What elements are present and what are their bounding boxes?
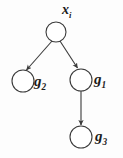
node-label-g2: g2 [34,74,46,92]
node-label-g3: g3 [95,129,107,147]
edge-root-to-g1 [60,41,78,68]
node-g1-circle[interactable] [70,69,92,91]
node-label-g2-subscript: 2 [42,82,47,92]
node-label-root: xi [62,3,71,19]
node-label-g3-subscript: 3 [103,137,108,147]
node-g2-circle[interactable] [12,70,34,92]
node-label-root-subscript: i [69,10,71,20]
node-g3-circle[interactable] [70,126,92,148]
node-label-root-base: x [62,2,69,17]
node-label-g1-base: g [94,71,102,87]
node-root-circle[interactable] [46,22,66,42]
node-label-g2-base: g [34,73,42,89]
node-label-g1-subscript: 1 [102,80,107,90]
diagram-canvas: xi g2 g1 g3 [0,0,123,158]
node-label-g1: g1 [94,72,106,90]
node-group [12,22,92,148]
edge-root-to-g2 [27,41,53,70]
node-label-g3-base: g [95,128,103,144]
